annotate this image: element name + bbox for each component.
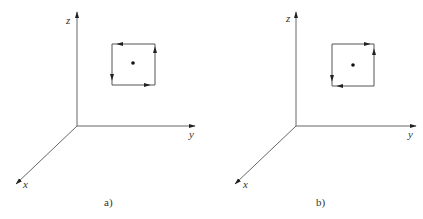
x-axis-label-a: x bbox=[23, 179, 28, 190]
z-axis-label-b: z bbox=[286, 13, 290, 24]
z-axis-label-a: z bbox=[66, 15, 70, 26]
axes-a bbox=[16, 12, 195, 184]
x-axis-label-b: x bbox=[243, 179, 248, 190]
diagram-canvas bbox=[0, 0, 423, 219]
panel-b bbox=[235, 12, 416, 184]
axes-b bbox=[235, 12, 416, 184]
x-axis-b bbox=[235, 126, 296, 184]
center-dot-b bbox=[351, 63, 355, 67]
panel-a bbox=[16, 12, 195, 184]
y-axis-label-b: y bbox=[408, 129, 413, 140]
x-axis-a bbox=[16, 126, 77, 184]
caption-b: b) bbox=[316, 197, 325, 208]
center-dot-a bbox=[131, 61, 135, 65]
y-axis-label-a: y bbox=[189, 129, 194, 140]
caption-a: a) bbox=[104, 197, 113, 208]
